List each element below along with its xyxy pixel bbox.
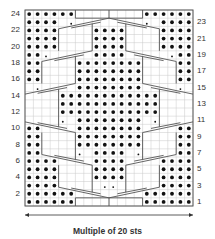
row-number: 13: [197, 100, 211, 108]
purl-dot: [120, 45, 124, 49]
purl-dot: [111, 94, 115, 98]
purl-dot: [128, 135, 132, 139]
purl-dot: [78, 94, 82, 98]
purl-dot: [36, 167, 40, 171]
purl-dot: [36, 37, 40, 41]
purl-dot: [187, 69, 191, 73]
purl-dot: [27, 45, 31, 49]
purl-dot: [128, 94, 132, 98]
purl-dot: [179, 45, 183, 49]
purl-dot: [95, 118, 99, 122]
purl-dot: [69, 12, 73, 16]
purl-dot: [86, 135, 90, 139]
purl-dot: [86, 102, 90, 106]
purl-dot: [44, 29, 48, 33]
purl-dot: [187, 159, 191, 163]
purl-dot: [53, 176, 57, 180]
purl-dot: [179, 61, 183, 65]
purl-dot: [95, 110, 99, 114]
purl-dot: [111, 102, 115, 106]
small-dot: [146, 23, 148, 25]
purl-dot: [95, 159, 99, 163]
purl-dot: [95, 29, 99, 33]
row-number: 20: [6, 43, 20, 51]
purl-dot: [95, 102, 99, 106]
row-number: 6: [6, 157, 20, 165]
row-number: 14: [6, 92, 20, 100]
purl-dot: [179, 78, 183, 82]
purl-dot: [145, 102, 149, 106]
purl-dot: [170, 37, 174, 41]
purl-dot: [27, 37, 31, 41]
purl-dot: [162, 37, 166, 41]
purl-dot: [103, 102, 107, 106]
row-number: 4: [6, 173, 20, 181]
purl-dot: [111, 167, 115, 171]
purl-dot: [179, 127, 183, 131]
purl-dot: [86, 110, 90, 114]
purl-dot: [128, 110, 132, 114]
purl-dot: [170, 167, 174, 171]
purl-dot: [162, 176, 166, 180]
purl-dot: [120, 176, 124, 180]
purl-dot: [36, 20, 40, 24]
purl-dot: [137, 78, 141, 82]
purl-dot: [153, 110, 157, 114]
arrow-right-icon: [189, 213, 193, 217]
purl-dot: [179, 192, 183, 196]
purl-dot: [179, 12, 183, 16]
purl-dot: [128, 127, 132, 131]
purl-dot: [44, 12, 48, 16]
purl-dot: [137, 86, 141, 90]
purl-dot: [36, 200, 40, 204]
purl-dot: [36, 45, 40, 49]
purl-dot: [179, 69, 183, 73]
purl-dot: [53, 20, 57, 24]
purl-dot: [170, 45, 174, 49]
purl-dot: [170, 159, 174, 163]
purl-dot: [36, 69, 40, 73]
purl-dot: [179, 159, 183, 163]
purl-dot: [103, 127, 107, 131]
purl-dot: [27, 200, 31, 204]
purl-dot: [36, 12, 40, 16]
small-dot: [104, 186, 106, 188]
purl-dot: [111, 118, 115, 122]
row-number: 10: [6, 124, 20, 132]
purl-dot: [44, 192, 48, 196]
purl-dot: [187, 12, 191, 16]
purl-dot: [61, 200, 65, 204]
purl-dot: [95, 151, 99, 155]
purl-dot: [111, 86, 115, 90]
purl-dot: [27, 159, 31, 163]
purl-dot: [128, 61, 132, 65]
row-number: 2: [6, 190, 20, 198]
purl-dot: [111, 78, 115, 82]
purl-dot: [111, 69, 115, 73]
purl-dot: [111, 176, 115, 180]
purl-dot: [78, 86, 82, 90]
purl-dot: [53, 29, 57, 33]
purl-dot: [103, 94, 107, 98]
purl-dot: [86, 69, 90, 73]
purl-dot: [103, 69, 107, 73]
purl-dot: [103, 159, 107, 163]
purl-dot: [78, 78, 82, 82]
purl-dot: [53, 45, 57, 49]
purl-dot: [153, 12, 157, 16]
purl-dot: [111, 143, 115, 147]
purl-dot: [179, 29, 183, 33]
purl-dot: [162, 159, 166, 163]
purl-dot: [36, 127, 40, 131]
purl-dot: [128, 86, 132, 90]
purl-dot: [111, 135, 115, 139]
purl-dot: [86, 143, 90, 147]
purl-dot: [95, 86, 99, 90]
small-dot: [154, 121, 156, 123]
purl-dot: [95, 78, 99, 82]
small-dot: [37, 88, 39, 90]
purl-dot: [187, 20, 191, 24]
purl-dot: [95, 94, 99, 98]
purl-dot: [179, 135, 183, 139]
purl-dot: [53, 12, 57, 16]
